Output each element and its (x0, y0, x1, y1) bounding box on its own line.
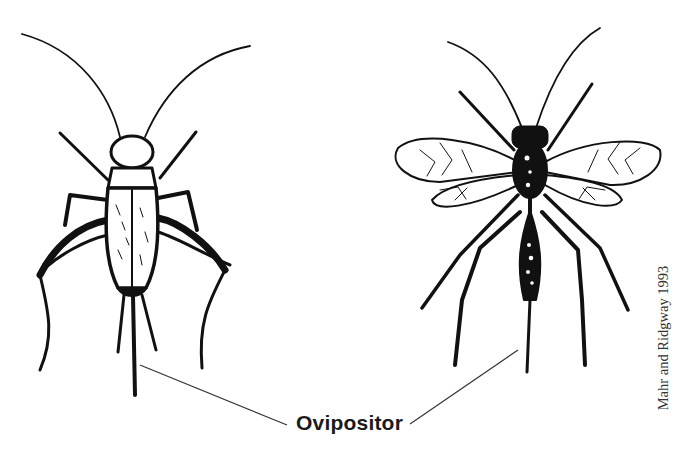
leader-line-wasp (410, 350, 518, 424)
leader-line-cricket (140, 365, 287, 425)
image-credit: Mahr and Ridgway 1993 (655, 266, 672, 411)
ovipositor-diagram (0, 0, 686, 460)
wasp-illustration (396, 28, 661, 372)
cricket-illustration (22, 34, 250, 395)
ovipositor-label: Ovipositor (296, 411, 403, 435)
